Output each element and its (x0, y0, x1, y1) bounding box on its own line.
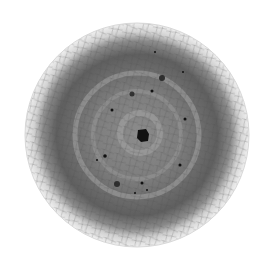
crackled-disc-image (0, 0, 268, 267)
